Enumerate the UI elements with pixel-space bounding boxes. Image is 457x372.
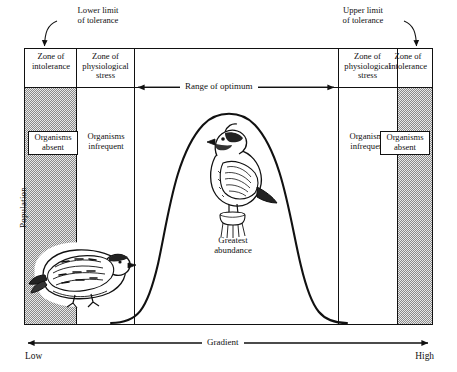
quail-illustration-struggling — [29, 231, 137, 319]
x-axis-label: Gradient — [202, 338, 244, 347]
x-axis-low-label: Low — [25, 352, 42, 361]
quail-illustration-thriving — [185, 111, 283, 239]
y-axis-label: Population — [18, 187, 28, 228]
greatest-abundance-line: abundance — [188, 245, 278, 255]
plot-frame: Zone of intolerance Zone of physiologica… — [24, 48, 433, 325]
tolerance-curve-diagram: Lower limit of tolerance Upper limit of … — [0, 0, 457, 372]
x-axis-high-label: High — [415, 352, 434, 361]
